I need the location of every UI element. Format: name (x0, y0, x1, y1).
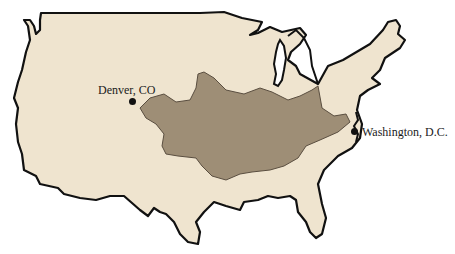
city-marker-denver (129, 98, 136, 105)
city-label-denver: Denver, CO (98, 84, 156, 96)
city-label-washington: Washington, D.C. (362, 126, 448, 138)
city-marker-washington (351, 128, 358, 135)
